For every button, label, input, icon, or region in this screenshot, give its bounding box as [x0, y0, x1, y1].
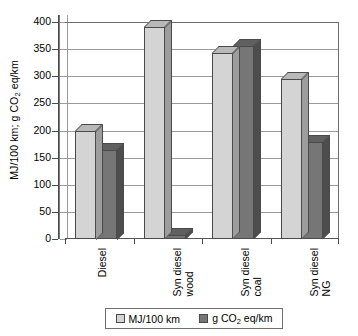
bar-syn-diesel-coal-series-1: [212, 53, 233, 239]
x-axis-tick: [65, 239, 66, 244]
bar-front-face: [281, 79, 302, 239]
y-axis-tick-labels: 050100150200250300350400: [0, 0, 51, 336]
x-axis-category-label: Syn dieselcoal: [240, 248, 263, 296]
legend-label: g CO2 eq/km: [212, 312, 272, 326]
bar-chart: MJ/100 km; g CO2 eq/km 05010015020025030…: [0, 0, 358, 336]
legend-item-1: MJ/100 km: [116, 313, 180, 325]
x-axis-ticks: [65, 239, 339, 245]
y-axis-tick-label: 100: [5, 179, 51, 190]
legend-label: MJ/100 km: [129, 313, 180, 325]
x-axis-category-label-line: Syn diesel: [172, 248, 184, 296]
plot-border-top: [65, 22, 339, 23]
x-axis-tick: [338, 239, 339, 244]
x-axis-category-label: Diesel: [97, 248, 109, 277]
gridline: [65, 49, 339, 50]
legend-label-subscript: 2: [237, 317, 241, 326]
y-axis-tick-label: 150: [5, 152, 51, 163]
bar-side-face: [302, 72, 309, 239]
x-axis-category-label-line: wood: [183, 248, 195, 296]
bar-side-face: [233, 46, 240, 239]
y-axis-tick: [52, 239, 58, 240]
legend-item-2: g CO2 eq/km: [199, 312, 272, 326]
legend: MJ/100 kmg CO2 eq/km: [105, 308, 283, 329]
legend-swatch: [116, 314, 125, 323]
bar-front-face: [144, 27, 165, 239]
bar-diesel-series-1: [75, 131, 96, 240]
y-axis-tick-label: 200: [5, 125, 51, 136]
x-axis-category-label-line: coal: [252, 248, 264, 296]
bar-syn-diesel-ng-series-1: [281, 79, 302, 239]
x-axis-category-label: Syn dieselNG: [309, 248, 332, 296]
legend-swatch: [199, 314, 208, 323]
plot-border-right: [338, 22, 339, 239]
y-axis-tick-label: 350: [5, 43, 51, 54]
bar-side-face: [96, 124, 103, 240]
y-axis-tick-label: 300: [5, 70, 51, 81]
bar-side-face: [323, 135, 330, 239]
x-axis-tick: [271, 239, 272, 244]
x-axis-tick: [202, 239, 203, 244]
x-axis-category-label-line: NG: [320, 248, 332, 296]
x-axis-category-label-line: Diesel: [97, 248, 109, 277]
bar-syn-diesel-wood-series-1: [144, 27, 165, 239]
y-axis-tick-label: 50: [5, 206, 51, 217]
bar-front-face: [212, 53, 233, 239]
x-axis-tick: [134, 239, 135, 244]
bar-front-face: [75, 131, 96, 240]
x-axis-category-label-line: Syn diesel: [309, 248, 321, 296]
y-axis-tick-label: 400: [5, 16, 51, 27]
y-axis-tick-label: 0: [5, 233, 51, 244]
plot-area: [65, 22, 339, 239]
bar-side-face: [165, 20, 172, 239]
y-axis-tick-label: 250: [5, 97, 51, 108]
bar-side-face: [254, 39, 261, 239]
bar-side-face: [117, 143, 124, 240]
x-axis-category-label: Syn dieselwood: [172, 248, 195, 296]
